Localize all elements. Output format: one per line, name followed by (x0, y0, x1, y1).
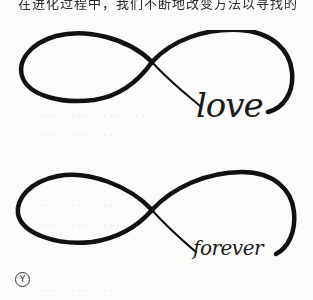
infinity-left-loop (21, 33, 152, 101)
infinity-tail-to-word (152, 210, 196, 252)
bleed-through-text: · · · · · · · · · · · · (40, 285, 303, 296)
clipped-header-text: 在进化过程中，我们不断地改变方法以寻找的 (18, 0, 313, 12)
infinity-tail-to-word (152, 62, 200, 106)
infinity-love-figure (0, 30, 313, 160)
infinity-left-loop (18, 175, 152, 243)
infinity-forever-figure (0, 160, 313, 270)
script-word-love: love (196, 85, 263, 125)
script-word-forever: forever (193, 236, 263, 260)
circled-y-icon: Y (15, 272, 30, 287)
